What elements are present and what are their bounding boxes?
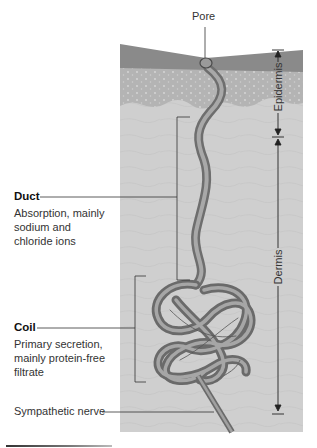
duct-description-line-3: chloride ions bbox=[14, 235, 76, 249]
coil-description-line-3: filtrate bbox=[14, 366, 44, 380]
epidermis-label: Epidermis bbox=[272, 58, 284, 116]
pore-label: Pore bbox=[192, 10, 215, 24]
pore-opening bbox=[200, 58, 212, 68]
duct-description-line-2: sodium and bbox=[14, 221, 71, 235]
bottom-rule bbox=[6, 445, 112, 447]
sympathetic-nerve-label: Sympathetic nerve bbox=[14, 405, 105, 419]
dermis-label: Dermis bbox=[272, 247, 284, 287]
duct-description-line-1: Absorption, mainly bbox=[14, 207, 105, 221]
duct-title: Duct bbox=[14, 190, 40, 204]
coil-description-line-1: Primary secretion, bbox=[14, 338, 103, 352]
sweat-gland-diagram: Pore Epidermis Dermis Duct Absorption, m… bbox=[0, 0, 317, 448]
coil-title: Coil bbox=[14, 321, 36, 335]
coil-description-line-2: mainly protein-free bbox=[14, 352, 105, 366]
